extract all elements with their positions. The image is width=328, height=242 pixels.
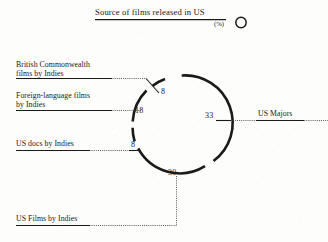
label-us-docs: US docs by Indies [16,140,74,149]
value-us-majors: 33 [205,111,213,120]
arc-british-commonwealth [152,79,165,86]
figure-root: Source of films released in US (%) Briti… [0,0,328,242]
label-us-films: US Films by Indies [16,215,77,224]
label-british-commonwealth: British Commonwealth films by Indies [16,61,90,78]
chart-title: Source of films released in US [95,8,205,18]
value-foreign-language: 18 [135,106,143,115]
leader-usdocs-d [140,152,150,164]
leader-british-d [146,79,159,94]
label-foreign-line2: by Indies [16,101,90,110]
circle-marker-icon [236,17,246,27]
chart-vector-layer [0,0,328,242]
value-us-docs: 8 [131,140,135,149]
chart-unit-label: (%) [214,20,224,27]
label-us-majors: US Majors [258,110,292,119]
donut-ring [133,75,233,173]
value-us-films: 30 [168,168,176,177]
label-foreign-language: Foreign-language films by Indies [16,92,90,109]
label-british-line2: films by Indies [16,70,90,79]
value-british-commonwealth: 8 [161,87,165,96]
